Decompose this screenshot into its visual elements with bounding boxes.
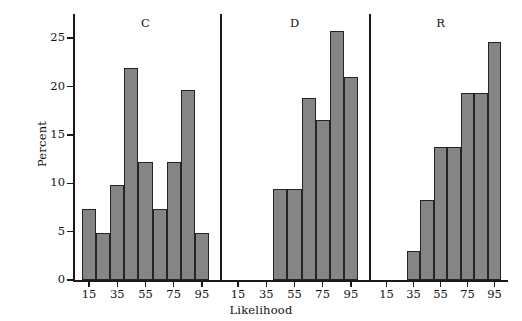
y-tick xyxy=(67,183,73,184)
histogram-bar xyxy=(330,31,344,280)
panel-separator xyxy=(369,14,371,281)
panel-title-d: D xyxy=(265,16,325,30)
histogram-bar xyxy=(488,42,502,280)
y-tick-label: 0 xyxy=(23,274,65,286)
x-tick-label: 75 xyxy=(162,289,186,301)
histogram-bar xyxy=(124,68,138,280)
histogram-figure: Percent 0510152025 CDR 15355575951535557… xyxy=(0,0,522,321)
y-axis-line xyxy=(73,14,75,281)
x-tick-label: 35 xyxy=(402,289,426,301)
histogram-bar xyxy=(195,233,209,280)
y-tick-label: 5 xyxy=(23,226,65,238)
y-tick-label: 20 xyxy=(23,81,65,93)
panel-separator xyxy=(220,14,222,281)
histogram-bar xyxy=(474,93,488,280)
panel-title-c: C xyxy=(116,16,176,30)
y-tick xyxy=(67,279,73,280)
x-tick-label: 75 xyxy=(311,289,335,301)
x-tick-label: 55 xyxy=(134,289,158,301)
panel-title-r: R xyxy=(411,16,471,30)
y-tick xyxy=(67,231,73,232)
y-tick-label: 25 xyxy=(23,32,65,44)
histogram-bar xyxy=(461,93,475,280)
y-tick xyxy=(67,134,73,135)
y-tick-label: 10 xyxy=(23,177,65,189)
histogram-bar xyxy=(82,209,96,280)
histogram-bar xyxy=(287,189,301,280)
x-tick-label: 55 xyxy=(283,289,307,301)
histogram-bar xyxy=(447,147,461,280)
histogram-bar xyxy=(302,98,316,280)
x-tick-label: 35 xyxy=(254,289,278,301)
x-tick-label: 95 xyxy=(339,289,363,301)
x-tick-label: 55 xyxy=(429,289,453,301)
histogram-bar xyxy=(316,120,330,280)
histogram-bar xyxy=(96,233,110,280)
histogram-bar xyxy=(153,209,167,280)
x-tick-label: 95 xyxy=(190,289,214,301)
y-axis-labels: Percent 0510152025 xyxy=(18,0,65,321)
histogram-bar xyxy=(110,185,124,280)
y-tick xyxy=(67,37,73,38)
histogram-bar xyxy=(138,162,152,280)
histogram-bar xyxy=(420,200,434,280)
y-tick xyxy=(67,86,73,87)
x-axis-line xyxy=(73,280,508,282)
x-tick-label: 35 xyxy=(105,289,129,301)
histogram-bar xyxy=(167,162,181,280)
x-axis-title: Likelihood xyxy=(0,303,522,317)
x-tick-label: 15 xyxy=(226,289,250,301)
histogram-bar xyxy=(407,251,421,280)
histogram-bar xyxy=(273,189,287,280)
x-tick-label: 15 xyxy=(77,289,101,301)
x-tick-label: 95 xyxy=(483,289,507,301)
y-tick-label: 15 xyxy=(23,129,65,141)
x-tick-label: 75 xyxy=(456,289,480,301)
histogram-bar xyxy=(434,147,448,280)
histogram-bar xyxy=(344,77,358,280)
histogram-bar xyxy=(181,90,195,280)
x-tick-label: 15 xyxy=(375,289,399,301)
